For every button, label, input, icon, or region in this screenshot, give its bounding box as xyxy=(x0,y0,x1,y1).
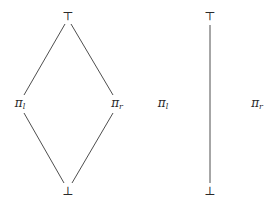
top-element-right: ⊤ xyxy=(204,10,215,22)
edge-pi-l-to-bottom xyxy=(24,113,64,183)
top-element-left: ⊤ xyxy=(62,10,73,22)
subscript-r: r xyxy=(119,102,123,111)
pi-r-node-left: πr xyxy=(111,97,123,111)
pi-symbol: π xyxy=(111,96,119,110)
pi-symbol: π xyxy=(15,96,23,110)
bottom-element-right: ⊥ xyxy=(204,185,215,197)
pi-symbol: π xyxy=(251,96,259,110)
subscript-l: l xyxy=(166,102,169,111)
pi-l-node-left: πl xyxy=(15,97,25,111)
edge-top-to-pi-r xyxy=(71,24,113,95)
pi-r-node-right: πr xyxy=(251,97,263,111)
lattice-diagrams: ⊤ πl πr ⊥ ⊤ πl πr ⊥ xyxy=(0,0,278,208)
subscript-r: r xyxy=(259,102,263,111)
subscript-l: l xyxy=(23,102,26,111)
edges-layer xyxy=(0,0,278,208)
edge-top-to-pi-l xyxy=(24,24,65,95)
pi-symbol: π xyxy=(158,96,166,110)
edge-pi-r-to-bottom xyxy=(72,113,113,183)
bottom-element-left: ⊥ xyxy=(62,185,73,197)
pi-l-node-right: πl xyxy=(158,97,168,111)
